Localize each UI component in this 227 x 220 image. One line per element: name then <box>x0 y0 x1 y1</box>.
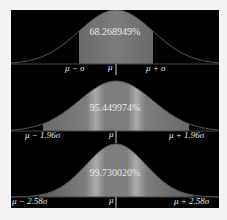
bell-curve-1 <box>11 10 219 75</box>
panel-2.58-sigma: 99.730020% μ − 2.58σ μ μ + 2.58σ <box>11 143 219 208</box>
diagram-frame: 68.268949% μ − σ μ μ + σ 95.449974% μ − … <box>11 10 219 208</box>
mean-label: μ <box>109 129 114 139</box>
mean-label: μ <box>108 62 113 72</box>
right-bound-label: μ + 2.58σ <box>174 196 209 206</box>
panel-1-sigma: 68.268949% μ − σ μ μ + σ <box>11 10 219 75</box>
panel-1.96-sigma: 95.449974% μ − 1.96σ μ μ + 1.96σ <box>11 75 219 143</box>
left-bound-label: μ − 1.96σ <box>25 130 60 140</box>
percentage-label: 95.449974% <box>11 102 219 113</box>
left-bound-label: μ − σ <box>65 63 85 73</box>
left-bound-label: μ − 2.58σ <box>12 196 47 206</box>
mean-label: μ <box>109 195 114 205</box>
right-bound-label: μ + 1.96σ <box>169 130 204 140</box>
percentage-label: 68.268949% <box>11 26 219 37</box>
right-bound-label: μ + σ <box>146 63 166 73</box>
percentage-label: 99.730020% <box>11 167 219 178</box>
